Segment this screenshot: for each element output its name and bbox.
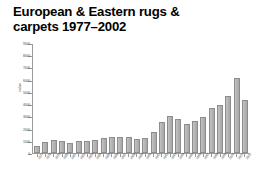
x-label-slot: 1978 xyxy=(41,158,49,174)
bar xyxy=(84,141,90,153)
bar-slot xyxy=(191,44,199,153)
bar xyxy=(225,96,231,153)
bar xyxy=(51,140,57,153)
bar-slot xyxy=(149,44,157,153)
bar xyxy=(109,137,115,153)
x-label-slot: 1990 xyxy=(141,158,149,174)
x-label-slot: 1980 xyxy=(58,158,66,174)
bar xyxy=(67,143,73,153)
bar xyxy=(234,78,240,153)
y-tick-label: 4000 xyxy=(23,103,30,107)
bar-slot xyxy=(75,44,83,153)
bar-slot xyxy=(208,44,216,153)
bar xyxy=(101,138,107,153)
x-label-slot: 1998 xyxy=(208,158,216,174)
x-label-slot: 1983 xyxy=(83,158,91,174)
bar-slot xyxy=(108,44,116,153)
bar-slot xyxy=(33,44,41,153)
y-tick-label: 6000 xyxy=(23,79,30,83)
bar xyxy=(142,138,148,153)
bar xyxy=(159,122,165,153)
bar-slot xyxy=(50,44,58,153)
y-tick-label: 7000 xyxy=(23,66,30,70)
bar xyxy=(59,141,65,153)
plot-area: 0100020003000400050006000700080009000 19… xyxy=(32,44,249,154)
bar xyxy=(167,116,173,153)
bar xyxy=(151,132,157,153)
x-label-slot: 1999 xyxy=(216,158,224,174)
x-label-slot: 1988 xyxy=(124,158,132,174)
x-label-slot: 1987 xyxy=(116,158,124,174)
bar-slot xyxy=(66,44,74,153)
bar xyxy=(217,105,223,153)
bar-slot xyxy=(133,44,141,153)
chart-page: European & Eastern rugs & carpets 1977–2… xyxy=(0,0,257,174)
bar-slot xyxy=(174,44,182,153)
bar-slot xyxy=(41,44,49,153)
x-label-slot: 1986 xyxy=(108,158,116,174)
x-label-slot: 1994 xyxy=(174,158,182,174)
bar-slot xyxy=(124,44,132,153)
x-label-slot: 1979 xyxy=(50,158,58,174)
bar-slot xyxy=(91,44,99,153)
page-title: European & Eastern rugs & carpets 1977–2… xyxy=(13,5,245,34)
bar xyxy=(175,119,181,153)
x-label-slot: 1992 xyxy=(158,158,166,174)
bar-slot xyxy=(158,44,166,153)
bar-slot xyxy=(216,44,224,153)
bar-slot xyxy=(58,44,66,153)
bar xyxy=(184,124,190,153)
x-label-slot: 1977 xyxy=(33,158,41,174)
bar xyxy=(200,117,206,153)
bar-series xyxy=(33,44,249,153)
x-label-slot: 1993 xyxy=(166,158,174,174)
bar-slot xyxy=(116,44,124,153)
bar-slot xyxy=(233,44,241,153)
bar xyxy=(34,146,40,153)
x-label-slot: 2001 xyxy=(233,158,241,174)
y-axis-title: value xyxy=(18,83,22,92)
bar xyxy=(134,139,140,153)
y-tick-label: 0 xyxy=(28,152,30,156)
x-label-slot: 1997 xyxy=(199,158,207,174)
x-axis-labels: 1977197819791980198119821983198419851986… xyxy=(33,158,249,174)
x-label-slot: 1995 xyxy=(183,158,191,174)
x-label-slot: 1981 xyxy=(66,158,74,174)
bar xyxy=(209,108,215,153)
y-tick-label: 2000 xyxy=(23,128,30,132)
bar xyxy=(117,137,123,153)
bar-slot xyxy=(166,44,174,153)
bar-slot xyxy=(100,44,108,153)
bar xyxy=(192,121,198,153)
bar-slot xyxy=(83,44,91,153)
x-label-slot: 2002 xyxy=(241,158,249,174)
y-tick-label: 1000 xyxy=(23,140,30,144)
y-tick-label: 9000 xyxy=(23,42,30,46)
bar-slot xyxy=(199,44,207,153)
bar xyxy=(42,142,48,153)
y-tick-label: 5000 xyxy=(23,91,30,95)
y-tick-label: 3000 xyxy=(23,115,30,119)
x-label-slot: 1984 xyxy=(91,158,99,174)
x-label-slot: 1982 xyxy=(75,158,83,174)
x-label-slot: 1991 xyxy=(149,158,157,174)
x-label-slot: 1996 xyxy=(191,158,199,174)
bar-slot xyxy=(141,44,149,153)
bar-slot xyxy=(224,44,232,153)
x-label-slot: 2000 xyxy=(224,158,232,174)
x-label-slot: 1989 xyxy=(133,158,141,174)
bar xyxy=(126,137,132,153)
bar xyxy=(76,141,82,153)
bar-slot xyxy=(183,44,191,153)
bar-slot xyxy=(241,44,249,153)
y-tick-label: 8000 xyxy=(23,54,30,58)
bar xyxy=(242,100,248,153)
bar xyxy=(92,140,98,153)
x-label-slot: 1985 xyxy=(100,158,108,174)
